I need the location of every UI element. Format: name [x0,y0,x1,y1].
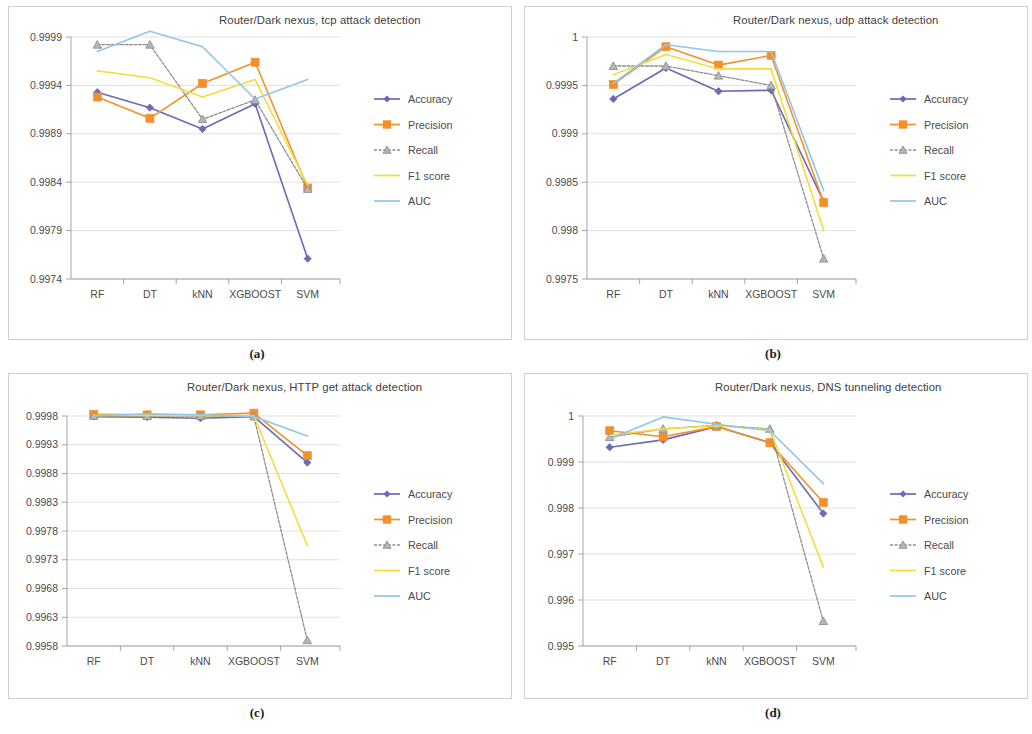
legend-item-accuracy[interactable]: Accuracy [890,93,969,105]
y-axis-tick-label: 0.998 [552,224,578,236]
legend-label: Accuracy [924,488,969,500]
y-axis-tick-label: 0.9968 [26,582,58,594]
chart-title-d: Router/Dark nexus, DNS tunneling detecti… [715,381,942,393]
legend-label: Accuracy [408,93,453,105]
panel-c-cell: Router/Dark nexus, HTTP get attack detec… [0,367,516,734]
y-axis-tick-label: 0.9963 [26,611,58,623]
legend-item-precision[interactable]: Precision [374,119,452,131]
legend-item-auc[interactable]: AUC [890,195,947,207]
series-line-auc [97,31,307,99]
y-axis-tick-label: 0.9979 [30,224,62,236]
x-axis-tick-label: XGBOOST [745,288,798,300]
x-axis-tick-label: kNN [192,288,212,300]
x-axis-tick-label: DT [659,288,674,300]
legend-item-recall[interactable]: Recall [374,539,438,551]
y-axis-tick-label: 0.9988 [26,467,58,479]
chart-title-c: Router/Dark nexus, HTTP get attack detec… [187,381,422,393]
legend-item-accuracy[interactable]: Accuracy [374,488,453,500]
panel-a-cell: Router/Dark nexus, tcp attack detection … [0,0,516,367]
series-line-precision [613,47,823,203]
legend-item-f1-score[interactable]: F1 score [374,565,450,577]
legend-swatch-marker [383,120,391,128]
legend-label: Precision [408,119,452,131]
chart-panel-c: Router/Dark nexus, HTTP get attack detec… [8,373,512,699]
y-axis-tick-label: 0.9978 [26,525,58,537]
x-axis-tick-label: SVM [296,288,319,300]
y-axis-tick-label: 0.997 [548,548,574,560]
x-axis-tick-label: XGBOOST [744,655,797,667]
y-axis-tick-label: 0.9985 [546,176,578,188]
legend-item-auc[interactable]: AUC [890,590,947,602]
y-axis-tick-label: 0.9983 [26,496,58,508]
panel-d-cell: Router/Dark nexus, DNS tunneling detecti… [516,367,1032,734]
data-point-marker [610,95,617,102]
y-axis-tick-label: 0.9993 [26,438,58,450]
series-line-accuracy [610,427,824,514]
legend-swatch-marker [899,95,906,102]
data-point-marker [659,433,667,441]
legend-item-f1-score[interactable]: F1 score [890,170,966,182]
legend-label: Precision [924,514,968,526]
legend-item-accuracy[interactable]: Accuracy [890,488,969,500]
chart-svg-d: 10.9990.9980.9970.9960.995RFDTkNNXGBOOST… [525,374,1029,684]
chart-panel-b: Router/Dark nexus, udp attack detection … [524,6,1028,340]
chart-svg-a: 0.99990.99940.99890.99840.99790.9974RFDT… [9,7,513,325]
subfigure-caption-a: (a) [8,346,506,362]
legend-label: F1 score [924,170,966,182]
x-axis-tick-label: XGBOOST [229,288,282,300]
legend-item-accuracy[interactable]: Accuracy [374,93,453,105]
legend-label: AUC [924,195,947,207]
chart-svg-b: 10.99950.9990.99850.9980.9975RFDTkNNXGBO… [525,7,1029,325]
legend-label: F1 score [408,565,450,577]
chart-panel-d: Router/Dark nexus, DNS tunneling detecti… [524,373,1028,699]
data-point-marker [820,254,828,262]
x-axis-tick-label: SVM [296,655,319,667]
legend-label: F1 score [924,565,966,577]
y-axis-tick-label: 0.9999 [30,31,62,43]
series-line-f1-score [610,426,824,567]
legend-item-recall[interactable]: Recall [890,539,954,551]
legend-swatch-marker [899,120,907,128]
x-axis-tick-label: SVM [812,288,835,300]
legend-item-precision[interactable]: Precision [890,119,968,131]
legend-label: Recall [924,144,954,156]
legend-item-recall[interactable]: Recall [374,144,438,156]
series-line-recall [610,425,824,621]
data-point-marker [146,114,154,122]
data-point-marker [199,125,206,132]
legend-label: Recall [924,539,954,551]
legend-swatch-marker [899,515,907,523]
caption-text-d: (d) [765,705,781,720]
legend-label: Accuracy [924,93,969,105]
legend-label: Precision [924,119,968,131]
series-line-precision [610,427,824,503]
y-axis-tick-label: 0.9998 [26,410,58,422]
chart-title-b: Router/Dark nexus, udp attack detection [733,14,938,26]
chart-title-a: Router/Dark nexus, tcp attack detection [219,14,421,26]
data-point-marker [819,498,827,506]
y-axis-tick-label: 0.9994 [30,79,62,91]
legend-item-precision[interactable]: Precision [890,514,968,526]
subfigure-caption-d: (d) [524,705,1022,721]
data-point-marker [662,62,670,70]
data-point-marker [146,41,154,49]
x-axis-tick-label: DT [656,655,671,667]
legend-label: Recall [408,539,438,551]
legend-swatch-marker [383,515,391,523]
legend-item-precision[interactable]: Precision [374,514,452,526]
y-axis-tick-label: 0.9974 [30,273,62,285]
legend-item-f1-score[interactable]: F1 score [374,170,450,182]
x-axis-tick-label: RF [603,655,617,667]
data-point-marker [820,199,828,207]
x-axis-tick-label: kNN [190,655,210,667]
legend-item-auc[interactable]: AUC [374,590,431,602]
y-axis-tick-label: 0.9984 [30,176,62,188]
x-axis-tick-label: RF [90,288,104,300]
subfigure-caption-c: (c) [8,705,506,721]
legend-item-recall[interactable]: Recall [890,144,954,156]
x-axis-tick-label: DT [140,655,155,667]
legend-item-f1-score[interactable]: F1 score [890,565,966,577]
x-axis-tick-label: RF [87,655,101,667]
x-axis-tick-label: DT [143,288,158,300]
legend-item-auc[interactable]: AUC [374,195,431,207]
